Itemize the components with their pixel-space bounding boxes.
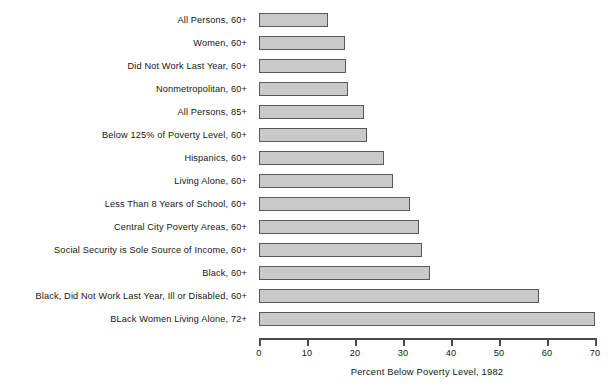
x-axis-tick-label: 50 (494, 348, 505, 358)
bar-row (259, 128, 599, 142)
category-label: All Persons, 60+ (0, 13, 253, 27)
x-axis-tick-label: 40 (446, 348, 457, 358)
x-axis: 010203040506070 (259, 338, 595, 340)
bar (259, 128, 367, 142)
bar-row (259, 82, 599, 96)
category-label: Did Not Work Last Year, 60+ (0, 59, 253, 73)
x-axis-tick-label: 60 (542, 348, 553, 358)
bar (259, 59, 346, 73)
bars-column (259, 13, 599, 335)
category-label: Black, 60+ (0, 266, 253, 280)
category-label-column: All Persons, 60+Women, 60+Did Not Work L… (0, 13, 253, 335)
bar-row (259, 266, 599, 280)
x-axis-tick-label: 20 (350, 348, 361, 358)
bar (259, 36, 345, 50)
x-axis-tick-label: 0 (256, 348, 261, 358)
bar (259, 151, 384, 165)
bar-row (259, 289, 599, 303)
category-label: Central City Poverty Areas, 60+ (0, 220, 253, 234)
bar (259, 174, 393, 188)
category-label: Below 125% of Poverty Level, 60+ (0, 128, 253, 142)
bar (259, 197, 410, 211)
x-axis-tick (403, 338, 405, 346)
x-axis-tick (259, 338, 261, 346)
x-axis-tick (307, 338, 309, 346)
bar (259, 82, 348, 96)
x-axis-tick-label: 10 (302, 348, 313, 358)
category-label: Hispanics, 60+ (0, 151, 253, 165)
plot-area: All Persons, 60+Women, 60+Did Not Work L… (0, 0, 612, 391)
category-label: All Persons, 85+ (0, 105, 253, 119)
bar-row (259, 105, 599, 119)
bar-row (259, 220, 599, 234)
bar (259, 289, 539, 303)
bar-row (259, 13, 599, 27)
category-label: Women, 60+ (0, 36, 253, 50)
x-axis-tick (499, 338, 501, 346)
bar-row (259, 197, 599, 211)
bar (259, 220, 419, 234)
category-label: Black, Did Not Work Last Year, Ill or Di… (0, 289, 253, 303)
category-label: Living Alone, 60+ (0, 174, 253, 188)
poverty-bar-chart: All Persons, 60+Women, 60+Did Not Work L… (0, 0, 612, 391)
bar-row (259, 36, 599, 50)
bar-row (259, 151, 599, 165)
x-axis-title: Percent Below Poverty Level, 1982 (259, 366, 595, 377)
bar (259, 13, 328, 27)
x-axis-tick (451, 338, 453, 346)
bar (259, 312, 595, 326)
x-axis-tick-label: 70 (590, 348, 601, 358)
bar-row (259, 243, 599, 257)
category-label: BLack Women Living Alone, 72+ (0, 312, 253, 326)
x-axis-tick (595, 338, 597, 346)
bar-row (259, 312, 599, 326)
category-label: Nonmetropolitan, 60+ (0, 82, 253, 96)
bar (259, 105, 364, 119)
bar (259, 266, 430, 280)
x-axis-tick (355, 338, 357, 346)
category-label: Social Security is Sole Source of Income… (0, 243, 253, 257)
category-label: Less Than 8 Years of School, 60+ (0, 197, 253, 211)
bar (259, 243, 422, 257)
x-axis-tick-label: 30 (398, 348, 409, 358)
x-axis-tick (547, 338, 549, 346)
bar-row (259, 59, 599, 73)
bar-row (259, 174, 599, 188)
